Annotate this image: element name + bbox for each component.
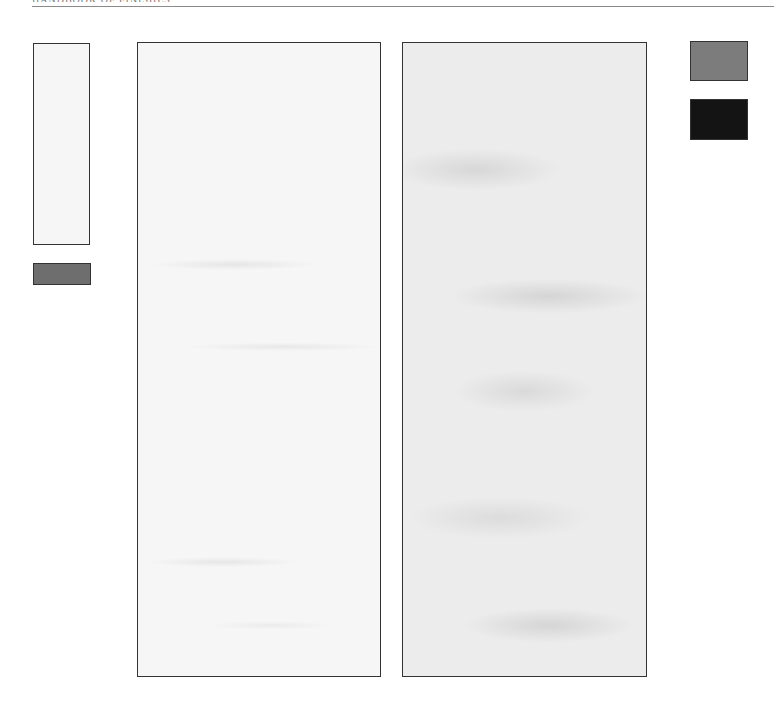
swatch-mid-grey-bar: [33, 263, 91, 285]
swatch-grey-right: [690, 41, 748, 81]
header-rule: [32, 6, 774, 7]
swatch-light-tall: [33, 43, 90, 245]
panel-light-marble: [137, 42, 381, 677]
swatch-black-right: [690, 99, 748, 140]
running-header: HANDBOOK OF FINISHES: [32, 0, 171, 2]
panel-grey-marble: [402, 42, 647, 677]
